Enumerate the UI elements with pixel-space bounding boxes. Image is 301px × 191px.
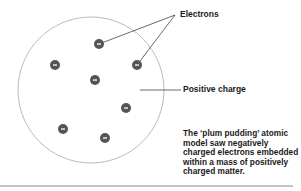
minus-sign-icon [135, 64, 139, 65]
electrons-group [50, 39, 142, 143]
minus-sign-icon [93, 79, 97, 80]
minus-sign-icon [53, 64, 57, 65]
electrons-label: Electrons [180, 9, 219, 19]
minus-sign-icon [97, 43, 101, 44]
minus-sign-icon [103, 137, 107, 138]
electron-icon [90, 75, 100, 85]
caption-line: charged matter. [183, 167, 301, 177]
electron-icon [132, 60, 142, 70]
electron-icon [94, 39, 104, 49]
leader-lines [99, 15, 181, 90]
minus-sign-icon [124, 107, 128, 108]
electron-icon [58, 124, 68, 134]
caption: The ‘plum pudding’ atomic model saw nega… [183, 129, 301, 177]
positive-charge-label: Positive charge [183, 84, 246, 94]
electron-icon [121, 103, 131, 113]
electron-icon [100, 133, 110, 143]
electron-icon [50, 60, 60, 70]
minus-sign-icon [61, 128, 65, 129]
